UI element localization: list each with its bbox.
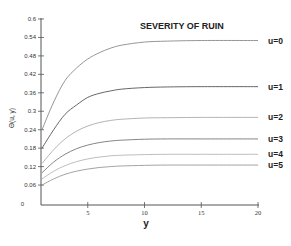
- y-tick-label: 0.42: [24, 71, 36, 77]
- x-tick-label: 15: [198, 209, 205, 216]
- severity-of-ruin-chart: SEVERITY OF RUIN 00.060.120.180.240.30.3…: [0, 0, 291, 246]
- series-label-u-3: u=3: [268, 134, 283, 144]
- x-axis-label: y: [143, 218, 149, 229]
- y-tick-label: 0.48: [24, 53, 36, 59]
- y-tick-label: 0.6: [28, 16, 37, 22]
- y-tick-label: 0.06: [24, 182, 36, 188]
- y-axis-label: Θ(u, y): [8, 108, 16, 128]
- series-line-u-5: [42, 165, 258, 185]
- x-tick-label: 10: [141, 209, 148, 216]
- series-label-u-4: u=4: [268, 149, 283, 159]
- series-label-u-5: u=5: [268, 160, 283, 170]
- y-tick-label: 0.54: [24, 34, 36, 40]
- y-axis-ticks: 00.060.120.180.240.30.360.420.480.540.6: [21, 16, 44, 207]
- y-tick-label: 0.24: [24, 127, 36, 133]
- y-tick-label: 0.18: [24, 145, 36, 151]
- series-label-u-1: u=1: [268, 82, 283, 92]
- x-axis: 5101520: [41, 202, 261, 216]
- series-labels: u=0u=1u=2u=3u=4u=5: [268, 36, 283, 171]
- series-label-u-0: u=0: [268, 36, 283, 46]
- y-tick-label: 0.12: [24, 164, 36, 170]
- y-axis: 00.060.120.180.240.30.360.420.480.540.6: [21, 16, 44, 207]
- series-label-u-2: u=2: [268, 112, 283, 122]
- y-tick-label: 0.3: [28, 108, 37, 114]
- chart-title: SEVERITY OF RUIN: [140, 21, 224, 31]
- series-line-u-3: [42, 139, 258, 173]
- series-line-u-4: [42, 154, 258, 179]
- y-tick-label: 0.36: [24, 90, 36, 96]
- y-tick-label: 0: [21, 201, 25, 207]
- series-lines: [42, 40, 258, 185]
- series-line-u-0: [42, 40, 258, 129]
- series-line-u-2: [42, 117, 258, 163]
- x-axis-ticks: 5101520: [86, 202, 261, 216]
- x-tick-label: 5: [86, 209, 89, 216]
- x-tick-label: 20: [255, 209, 262, 216]
